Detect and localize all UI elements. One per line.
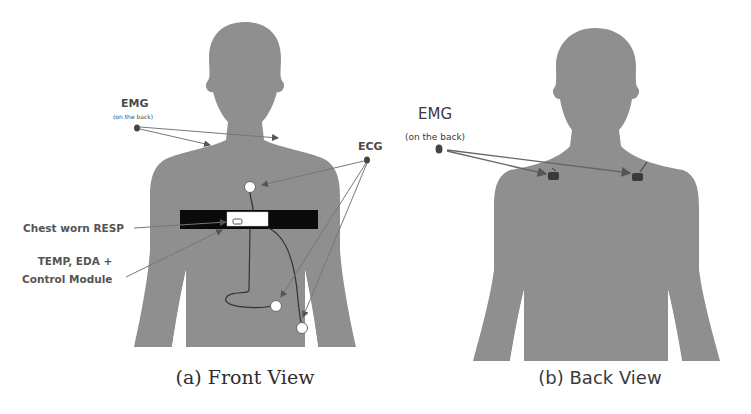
temp-eda-label: TEMP, EDA + [30,256,120,267]
emg-marker-back [436,145,443,154]
caption-front-view: (a) Front View [155,366,335,388]
emg-label-front: EMG [121,98,149,109]
control-module-label: Control Module [22,274,112,285]
back-silhouette [473,28,720,361]
sensor-placement-figure: EMG (on the back) ECG Chest worn RESP TE… [0,0,751,414]
caption-back-view: (b) Back View [505,367,695,388]
emg-note-front: (on the back) [113,114,153,120]
emg-label-back: EMG [418,107,452,122]
emg-marker-front [134,125,140,132]
module-button [233,219,242,224]
ecg-label: ECG [358,141,383,152]
emg-note-back: (on the back) [405,133,465,142]
body-silhouettes [0,0,751,414]
resp-label: Chest worn RESP [23,223,124,234]
ecg-marker [364,157,370,164]
